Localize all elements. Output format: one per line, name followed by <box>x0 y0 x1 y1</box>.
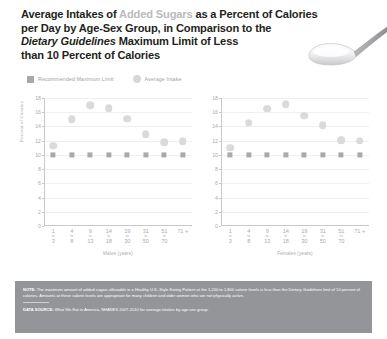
plot-area-males: 024681012141618 <box>44 98 192 226</box>
y-tick-mark <box>42 169 44 170</box>
data-point-average-intake <box>86 101 94 109</box>
y-tick-label: 6 <box>38 180 41 186</box>
x-label-end: 70 <box>154 238 174 244</box>
y-tick-mark <box>219 226 221 227</box>
x-axis-group-label: 14to18 <box>99 228 119 245</box>
y-tick-label: 14 <box>35 123 41 129</box>
data-point-average-intake <box>319 121 327 129</box>
circle-swatch-icon <box>133 75 141 83</box>
y-tick-label: 8 <box>215 166 218 172</box>
note-body: The maximum amount of added sugars allow… <box>23 287 360 298</box>
legend-item-average-intake: Average Intake <box>133 75 182 83</box>
title-line-3: Dietary Guidelines Maximum Limit of Less <box>21 35 311 49</box>
title-highlight-added-sugars: Added Sugars <box>119 8 192 20</box>
gridline <box>45 183 192 184</box>
square-swatch-icon <box>27 76 34 83</box>
data-point-average-intake <box>68 116 76 124</box>
y-tick-label: 18 <box>35 95 41 101</box>
data-point-recommended-limit <box>339 152 344 157</box>
y-tick-label: 12 <box>212 138 218 144</box>
y-tick-mark <box>42 212 44 213</box>
source-body: What We Eat in America, NHANES 2007-2010… <box>54 307 209 312</box>
data-point-average-intake <box>245 119 253 127</box>
y-tick-label: 2 <box>215 209 218 215</box>
y-tick-mark <box>42 155 44 156</box>
data-point-average-intake <box>123 115 131 123</box>
x-label-end: 50 <box>313 238 333 244</box>
x-axis-group-label: 4to8 <box>62 228 82 245</box>
data-point-recommended-limit <box>320 152 325 157</box>
data-point-average-intake <box>263 105 271 113</box>
legend-label: Average Intake <box>145 76 182 82</box>
x-axis-group-label: 71 + <box>173 228 193 234</box>
legend-label: Recommended Maximum Limit <box>38 76 114 82</box>
y-tick-label: 6 <box>215 180 218 186</box>
x-axis-group-label: 4to8 <box>239 228 259 245</box>
y-tick-mark <box>42 98 44 99</box>
gridline <box>45 212 192 213</box>
x-label-end: 8 <box>62 238 82 244</box>
x-axis-group-label: 31to50 <box>136 228 156 245</box>
y-tick-label: 4 <box>215 195 218 201</box>
data-point-average-intake <box>160 138 168 146</box>
x-label-single: 71 + <box>173 228 193 234</box>
data-point-recommended-limit <box>180 152 185 157</box>
y-tick-label: 12 <box>35 138 41 144</box>
data-point-recommended-limit <box>125 152 130 157</box>
gridline <box>222 183 369 184</box>
gridline <box>45 198 192 199</box>
title-italic-dietary-guidelines: Dietary Guidelines <box>21 35 116 47</box>
gridline <box>222 155 369 156</box>
y-tick-mark <box>219 198 221 199</box>
data-point-average-intake <box>282 101 290 109</box>
y-tick-mark <box>42 141 44 142</box>
x-axis-group-label: 19to30 <box>117 228 137 245</box>
y-axis-label: Percent of Calories <box>19 82 24 142</box>
y-tick-label: 10 <box>212 152 218 158</box>
x-label-end: 30 <box>294 238 314 244</box>
x-label-end: 70 <box>331 238 351 244</box>
x-axis-line <box>44 225 192 226</box>
data-point-recommended-limit <box>302 152 307 157</box>
y-tick-mark <box>42 126 44 127</box>
y-tick-mark <box>219 126 221 127</box>
data-point-recommended-limit <box>265 152 270 157</box>
x-label-end: 13 <box>80 238 100 244</box>
y-axis-line <box>221 98 222 226</box>
y-tick-label: 16 <box>212 109 218 115</box>
data-point-recommended-limit <box>162 152 167 157</box>
x-label-end: 13 <box>257 238 277 244</box>
x-label-end: 30 <box>117 238 137 244</box>
gridline <box>45 141 192 142</box>
x-axis-group-label: 1to3 <box>43 228 63 245</box>
figure-root: Average Intakes of Added Sugars as a Per… <box>0 0 387 339</box>
title-line-2: per Day by Age-Sex Group, in Comparison … <box>21 22 311 36</box>
x-label-end: 18 <box>99 238 119 244</box>
y-tick-label: 10 <box>35 152 41 158</box>
x-axis-group-label: 71 + <box>350 228 370 234</box>
y-tick-label: 4 <box>38 195 41 201</box>
data-point-recommended-limit <box>88 152 93 157</box>
data-point-recommended-limit <box>106 152 111 157</box>
x-label-end: 50 <box>136 238 156 244</box>
x-label-end: 3 <box>43 238 63 244</box>
chart-panel-males: Percent of Calories 024681012141618 Male… <box>18 94 198 266</box>
x-axis-group-label: 51to70 <box>331 228 351 245</box>
data-point-recommended-limit <box>143 152 148 157</box>
gridline <box>222 112 369 113</box>
data-point-average-intake <box>179 138 187 146</box>
y-tick-label: 16 <box>35 109 41 115</box>
gridline <box>222 198 369 199</box>
y-tick-mark <box>219 98 221 99</box>
title-line-4: than 10 Percent of Calories <box>21 49 311 63</box>
data-point-average-intake <box>105 104 113 112</box>
x-label-end: 18 <box>276 238 296 244</box>
gridline <box>45 169 192 170</box>
x-axis-title: Females (years) <box>221 251 369 256</box>
title-text-part: as a Percent of Calories <box>192 8 317 20</box>
chart-legend: Recommended Maximum Limit Average Intake <box>27 75 181 83</box>
y-tick-mark <box>42 226 44 227</box>
y-tick-label: 2 <box>38 209 41 215</box>
footer-note: NOTE: The maximum amount of added sugars… <box>23 287 364 298</box>
plot-area-females: 024681012141618 <box>221 98 369 226</box>
